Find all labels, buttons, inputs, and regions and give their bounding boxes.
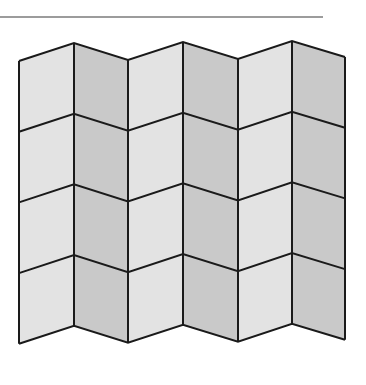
zigzag-row-edge xyxy=(19,324,345,344)
zigzag-tessellation-figure xyxy=(0,0,366,385)
